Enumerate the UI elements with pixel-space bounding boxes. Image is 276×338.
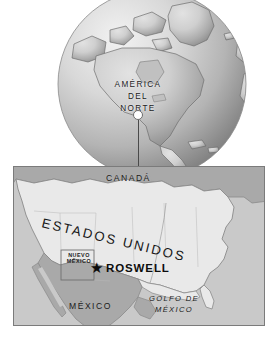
- leader-line: [138, 120, 139, 168]
- roswell-globe-point-marker: [133, 110, 143, 120]
- yucatan-peninsula: [134, 297, 156, 319]
- detail-map-panel: CANADÁ ESTADOS UNIDOS NUEVO MÉXICO ★ ROS…: [13, 166, 265, 326]
- detail-map-graphic: [14, 167, 265, 326]
- florida-peninsula: [200, 285, 214, 309]
- globe-label-del: DEL: [98, 91, 178, 103]
- globe-inset: AMÉRICA DEL NORTE: [0, 0, 276, 172]
- globe-label-america: AMÉRICA: [98, 79, 178, 91]
- roswell-star-icon: ★: [89, 260, 104, 275]
